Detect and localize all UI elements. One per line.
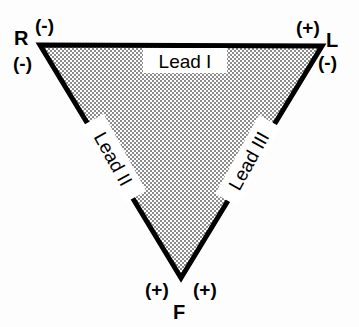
lead-label-i: Lead I	[143, 48, 227, 73]
vertex-l-polarity-upper: (+)	[296, 18, 320, 37]
vertex-r-polarity-upper: (-)	[35, 16, 54, 35]
vertex-l-polarity-lower: (-)	[318, 53, 337, 72]
triangle-body	[40, 45, 322, 278]
vertex-label-f: F	[173, 302, 185, 322]
vertex-r-polarity-lower: (-)	[13, 54, 32, 73]
vertex-label-r: R	[14, 28, 28, 48]
vertex-label-l: L	[326, 30, 338, 50]
vertex-f-polarity-right: (+)	[193, 280, 217, 299]
vertex-f-polarity-left: (+)	[145, 280, 169, 299]
einthoven-triangle-diagram: R (-) (-) L (+) (-) F (+) (+) Lead I Lea…	[0, 0, 359, 327]
